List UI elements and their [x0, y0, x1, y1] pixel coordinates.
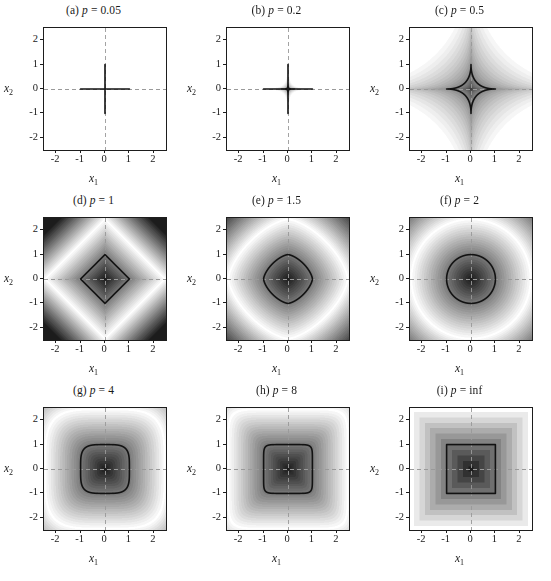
xtick-label-h-3: 1: [301, 534, 321, 544]
xtick-mark-c-2: [470, 150, 471, 153]
xtick-label-g-1: -1: [70, 534, 90, 544]
panel-equals-e: =: [277, 194, 284, 206]
y-axis-label-sub-b: 2: [192, 88, 196, 97]
ytick-label-a-3: -1: [12, 107, 38, 117]
ytick-label-a-4: -2: [12, 132, 38, 142]
xtick-label-c-3: 1: [484, 154, 504, 164]
ytick-mark-b-2: [223, 88, 226, 89]
plot-area-f: [409, 217, 533, 341]
x-axis-label-e: x1: [185, 362, 368, 377]
panel-g: (g) p = 4210-1-2-2-1012x2x1: [2, 382, 185, 572]
xtick-mark-i-2: [470, 530, 471, 533]
panel-param-value-f: 2: [473, 194, 479, 206]
panel-equals-c: =: [460, 4, 467, 16]
panel-letter-g: (g): [73, 384, 87, 396]
xtick-mark-f-3: [494, 340, 495, 343]
y-axis-label-i: x2: [370, 462, 379, 477]
panel-param-symbol-f: p: [455, 194, 461, 206]
panel-param-symbol-i: p: [451, 384, 457, 396]
ytick-label-d-3: -1: [12, 297, 38, 307]
ytick-mark-c-2: [406, 88, 409, 89]
ytick-label-d-2: 0: [12, 273, 38, 283]
xtick-mark-g-4: [153, 530, 154, 533]
panel-letter-a: (a): [66, 4, 79, 16]
ytick-label-h-2: 0: [195, 463, 221, 473]
ytick-label-d-0: 2: [12, 224, 38, 234]
y-axis-label-sub-g: 2: [9, 468, 13, 477]
xtick-label-d-0: -2: [45, 344, 65, 354]
xtick-label-h-1: -1: [253, 534, 273, 544]
y-axis-label-e: x2: [187, 272, 196, 287]
ytick-label-e-2: 0: [195, 273, 221, 283]
ytick-mark-i-3: [406, 492, 409, 493]
ytick-label-i-2: 0: [378, 463, 404, 473]
plot-area-h: [226, 407, 350, 531]
xtick-mark-f-4: [519, 340, 520, 343]
heatmap-canvas-d: [44, 218, 166, 340]
x-axis-label-f: x1: [368, 362, 551, 377]
x-axis-label-sub-d: 1: [94, 368, 98, 377]
y-axis-label-h: x2: [187, 462, 196, 477]
panel-equals-i: =: [460, 384, 467, 396]
xtick-label-b-0: -2: [228, 154, 248, 164]
ytick-label-c-0: 2: [378, 34, 404, 44]
xtick-label-d-2: 0: [94, 344, 114, 354]
xtick-mark-b-0: [238, 150, 239, 153]
ytick-mark-f-1: [406, 254, 409, 255]
xtick-mark-f-2: [470, 340, 471, 343]
x-axis-label-d: x1: [2, 362, 185, 377]
ytick-mark-g-0: [40, 419, 43, 420]
ytick-mark-a-0: [40, 39, 43, 40]
y-axis-label-sub-h: 2: [192, 468, 196, 477]
ytick-label-a-0: 2: [12, 34, 38, 44]
ytick-label-b-3: -1: [195, 107, 221, 117]
ytick-mark-d-4: [40, 327, 43, 328]
xtick-mark-c-4: [519, 150, 520, 153]
xtick-mark-f-0: [421, 340, 422, 343]
xtick-label-f-2: 0: [460, 344, 480, 354]
ytick-mark-i-4: [406, 517, 409, 518]
xtick-label-e-3: 1: [301, 344, 321, 354]
panel-title-h: (h) p = 8: [185, 384, 368, 396]
ytick-mark-a-4: [40, 137, 43, 138]
ytick-mark-e-1: [223, 254, 226, 255]
ytick-label-a-1: 1: [12, 59, 38, 69]
ytick-label-g-1: 1: [12, 439, 38, 449]
x-axis-label-sub-h: 1: [277, 558, 281, 567]
y-axis-label-a: x2: [4, 82, 13, 97]
panel-param-value-g: 4: [108, 384, 114, 396]
panel-title-g: (g) p = 4: [2, 384, 185, 396]
ytick-label-h-3: -1: [195, 487, 221, 497]
xtick-label-i-0: -2: [411, 534, 431, 544]
ytick-label-f-0: 2: [378, 224, 404, 234]
xtick-label-c-1: -1: [436, 154, 456, 164]
ytick-mark-g-1: [40, 444, 43, 445]
heatmap-canvas-c: [410, 28, 532, 150]
xtick-label-b-2: 0: [277, 154, 297, 164]
heatmap-canvas-b: [227, 28, 349, 150]
xtick-label-d-1: -1: [70, 344, 90, 354]
ytick-label-i-1: 1: [378, 439, 404, 449]
ytick-mark-a-3: [40, 112, 43, 113]
y-axis-label-sub-d: 2: [9, 278, 13, 287]
plot-area-i: [409, 407, 533, 531]
xtick-mark-c-1: [446, 150, 447, 153]
heatmap-canvas-f: [410, 218, 532, 340]
xtick-label-d-3: 1: [118, 344, 138, 354]
y-axis-label-b: x2: [187, 82, 196, 97]
panel-letter-e: (e): [252, 194, 265, 206]
xtick-mark-b-2: [287, 150, 288, 153]
xtick-mark-h-3: [311, 530, 312, 533]
ytick-mark-d-1: [40, 254, 43, 255]
xtick-label-e-0: -2: [228, 344, 248, 354]
xtick-mark-d-1: [80, 340, 81, 343]
panel-letter-i: (i): [437, 384, 448, 396]
ytick-mark-i-1: [406, 444, 409, 445]
figure-caption: [0, 570, 551, 581]
xtick-label-f-4: 2: [509, 344, 529, 354]
ytick-mark-g-2: [40, 468, 43, 469]
ytick-label-c-1: 1: [378, 59, 404, 69]
panel-param-symbol-b: p: [268, 4, 274, 16]
ytick-label-e-4: -2: [195, 322, 221, 332]
panel-param-symbol-d: p: [90, 194, 96, 206]
